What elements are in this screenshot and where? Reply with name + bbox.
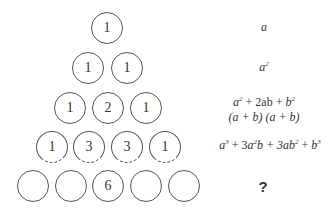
expression-row2: a2 [259, 60, 269, 75]
expression-row3-expanded: a2 + 2ab + b2 [233, 95, 295, 110]
pascal-circle-r5-c2 [55, 170, 87, 202]
expr-term: ab [283, 138, 295, 152]
expr-term: + 2ab + [243, 95, 286, 109]
pascal-circle-r3-c1: 1 [54, 92, 86, 124]
pascal-circle-r4-c1: 1 [36, 131, 68, 163]
expr-term: + 3 [229, 138, 248, 152]
question-mark: ? [258, 178, 267, 195]
pascal-circle-r4-c3: 3 [111, 131, 143, 163]
expression-row3-factored: (a + b) (a + b) [228, 110, 299, 125]
expr-term: b + 3 [257, 138, 283, 152]
pascal-circle-r3-c2: 2 [92, 92, 124, 124]
expr-exponent: 2 [265, 60, 269, 68]
pascal-circle-r5-c4 [130, 170, 162, 202]
pascal-circle-r2-c1: 1 [72, 52, 104, 84]
expression-row1: a [261, 20, 267, 35]
pascal-circle-r5-c1 [17, 170, 49, 202]
expression-row4: a3 + 3a2b + 3ab2 + b3 [219, 138, 321, 153]
pascal-circle-r4-c2: 3 [73, 131, 105, 163]
expr-exponent: 2 [291, 95, 295, 103]
expr-exponent: 3 [317, 138, 321, 146]
pascal-circle-r1-c1: 1 [91, 12, 123, 44]
pascal-circle-r4-c4: 1 [149, 131, 181, 163]
pascal-circle-r5-c3: 6 [92, 170, 124, 202]
pascal-circle-r3-c3: 1 [130, 92, 162, 124]
pascal-circle-r2-c2: 1 [111, 52, 143, 84]
pascal-circle-r5-c5 [168, 170, 200, 202]
expr-term: + [299, 138, 312, 152]
